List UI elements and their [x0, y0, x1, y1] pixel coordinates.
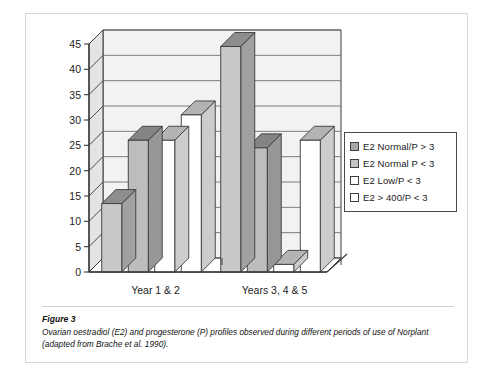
legend-label-0: E2 Normal/P > 3 [363, 141, 434, 152]
caption-description: Ovarian oestradiol (E2) and progesterone… [42, 327, 454, 350]
chart-legend: E2 Normal/P > 3 E2 Normal P < 3 E2 Low/P… [344, 132, 457, 212]
legend-item-0: E2 Normal/P > 3 [350, 138, 452, 155]
y-axis-tick-label: 35 [69, 89, 81, 101]
caption-title: Figure 3 [42, 314, 454, 324]
y-axis-tick-label: 45 [69, 38, 81, 50]
y-axis-tick-label: 15 [69, 190, 81, 202]
y-axis-tick-label: 40 [69, 63, 81, 75]
x-axis-category-label: Years 3, 4 & 5 [242, 284, 308, 296]
y-axis-tick-label: 20 [69, 165, 81, 177]
caption-divider [42, 306, 454, 307]
plot-left-wall [89, 30, 103, 272]
legend-label-1: E2 Normal P < 3 [363, 158, 434, 169]
figure-panel: 051015202530354045Year 1 & 2Years 3, 4 &… [25, 13, 468, 363]
legend-item-1: E2 Normal P < 3 [350, 155, 452, 172]
legend-label-2: E2 Low/P < 3 [363, 175, 421, 186]
bar-front-face [102, 204, 122, 272]
legend-label-3: E2 > 400/P < 3 [363, 192, 428, 203]
x-axis-category-label: Year 1 & 2 [131, 284, 180, 296]
legend-item-2: E2 Low/P < 3 [350, 172, 452, 189]
legend-swatch-icon-0 [350, 142, 359, 151]
y-axis-tick-label: 30 [69, 114, 81, 126]
bar-side-face [148, 126, 162, 272]
bar-group-1-series-0 [221, 33, 255, 272]
bar-side-face [175, 126, 189, 272]
legend-swatch-icon-2 [350, 176, 359, 185]
y-axis-tick-label: 25 [69, 139, 81, 151]
bar-side-face [241, 33, 255, 272]
chart-area: 051015202530354045Year 1 & 2Years 3, 4 &… [26, 14, 469, 302]
bar-side-face [267, 134, 281, 272]
bar-front-face [221, 47, 241, 272]
bar-group-0-series-0 [102, 190, 136, 272]
bar-side-face [320, 126, 334, 272]
legend-swatch-icon-3 [350, 193, 359, 202]
bar-front-face [274, 264, 294, 272]
legend-swatch-icon-1 [350, 159, 359, 168]
y-axis-tick-label: 5 [75, 241, 81, 253]
figure-caption: Figure 3 Ovarian oestradiol (E2) and pro… [42, 306, 454, 350]
bar-side-face [201, 101, 215, 272]
y-axis-tick-label: 10 [69, 215, 81, 227]
legend-item-3: E2 > 400/P < 3 [350, 189, 452, 206]
y-axis-tick-label: 0 [75, 266, 81, 278]
